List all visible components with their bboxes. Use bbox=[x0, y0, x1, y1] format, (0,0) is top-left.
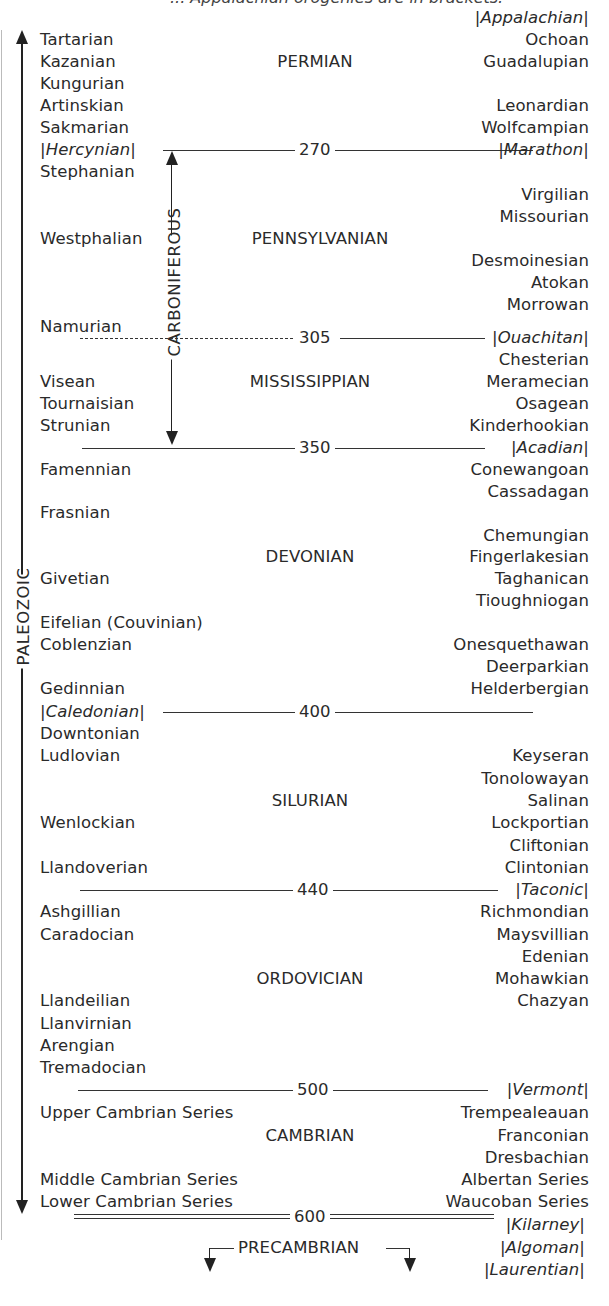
stage-wolfcampian: Wolfcampian bbox=[481, 118, 589, 138]
stage-frasnian: Frasnian bbox=[40, 503, 110, 523]
page-edge-line bbox=[1, 30, 2, 1240]
stage-taghanican: Taghanican bbox=[495, 569, 589, 589]
stage-virgilian: Virgilian bbox=[521, 185, 589, 205]
boundary-line-270 bbox=[163, 150, 533, 151]
stage-albertan: Albertan Series bbox=[461, 1170, 589, 1190]
stage-cassadagan: Cassadagan bbox=[487, 482, 589, 502]
stage-downtonian: Downtonian bbox=[40, 724, 140, 744]
stage-caradocian: Caradocian bbox=[40, 925, 134, 945]
stage-upper-cambrian: Upper Cambrian Series bbox=[40, 1103, 233, 1123]
period-devonian: DEVONIAN bbox=[235, 547, 385, 567]
stage-stephanian: Stephanian bbox=[40, 162, 135, 182]
stage-famennian: Famennian bbox=[40, 460, 131, 480]
boundary-line-440 bbox=[80, 890, 498, 891]
stage-conewangoan: Conewangoan bbox=[470, 460, 589, 480]
caption-fragment: ... Appalachian orogenies are in bracket… bbox=[170, 0, 503, 7]
stage-missourian: Missourian bbox=[499, 207, 589, 227]
orogeny-vermont: |Vermont| bbox=[507, 1080, 589, 1100]
stage-dresbachian: Dresbachian bbox=[485, 1148, 589, 1168]
stage-salinan: Salinan bbox=[528, 791, 589, 811]
paleozoic-label: PALEOZOIC bbox=[12, 575, 35, 669]
stage-llandeilian: Llandeilian bbox=[40, 991, 130, 1011]
precambrian-arrow-right-icon bbox=[404, 1258, 416, 1272]
period-pennsylvanian: PENNSYLVANIAN bbox=[220, 229, 420, 249]
stage-wenlockian: Wenlockian bbox=[40, 813, 135, 833]
stage-kungurian: Kungurian bbox=[40, 74, 125, 94]
period-mississippian: MISSISSIPPIAN bbox=[220, 372, 400, 392]
stage-leonardian: Leonardian bbox=[496, 96, 589, 116]
orogeny-appalachian: |Appalachian| bbox=[475, 8, 589, 28]
orogeny-taconic: |Taconic| bbox=[515, 880, 589, 900]
stage-namurian: Namurian bbox=[40, 317, 122, 337]
boundary-age-600: 600 bbox=[290, 1207, 330, 1227]
stage-gedinnian: Gedinnian bbox=[40, 679, 125, 699]
carboniferous-arrow-down-icon bbox=[166, 431, 178, 445]
carboniferous-label: CARBONIFEROUS bbox=[163, 236, 186, 360]
stage-deerparkian: Deerparkian bbox=[486, 657, 589, 677]
stage-desmoinesian: Desmoinesian bbox=[471, 251, 589, 271]
stage-cliftonian: Cliftonian bbox=[510, 836, 589, 856]
boundary-age-400: 400 bbox=[295, 702, 335, 722]
boundary-line-500 bbox=[78, 1090, 488, 1091]
orogeny-ouachitan: |Ouachitan| bbox=[492, 328, 589, 348]
precambrian-bracket-right bbox=[386, 1248, 410, 1249]
paleozoic-arrow-down-icon bbox=[16, 1200, 28, 1214]
period-silurian: SILURIAN bbox=[240, 791, 380, 811]
stage-trempealeauan: Trempealeauan bbox=[461, 1103, 589, 1123]
stage-arengian: Arengian bbox=[40, 1036, 115, 1056]
boundary-age-305: 305 bbox=[295, 328, 335, 348]
stage-clintonian: Clintonian bbox=[505, 858, 589, 878]
stage-mohawkian: Mohawkian bbox=[495, 969, 589, 989]
precambrian-arrow-left-icon bbox=[204, 1258, 216, 1272]
orogeny-acadian: |Acadian| bbox=[511, 438, 589, 458]
stage-middle-cambrian: Middle Cambrian Series bbox=[40, 1170, 238, 1190]
stage-lower-cambrian: Lower Cambrian Series bbox=[40, 1192, 233, 1212]
stage-kinderhookian: Kinderhookian bbox=[469, 416, 589, 436]
stage-chesterian: Chesterian bbox=[499, 350, 589, 370]
stage-eifelian: Eifelian (Couvinian) bbox=[40, 613, 203, 633]
stage-visean: Visean bbox=[40, 372, 95, 392]
stage-sakmarian: Sakmarian bbox=[40, 118, 129, 138]
stage-atokan: Atokan bbox=[531, 273, 589, 293]
boundary-age-500: 500 bbox=[293, 1080, 333, 1100]
stage-tremadocian: Tremadocian bbox=[40, 1058, 146, 1078]
stage-coblenzian: Coblenzian bbox=[40, 635, 132, 655]
carboniferous-arrow-up-icon bbox=[166, 151, 178, 165]
boundary-age-270: 270 bbox=[295, 140, 335, 160]
precambrian-bracket-left bbox=[210, 1248, 234, 1249]
boundary-line-305 bbox=[340, 338, 485, 339]
stage-meramecian: Meramecian bbox=[486, 372, 589, 392]
stage-edenian: Edenian bbox=[522, 947, 589, 967]
precambrian-label: PRECAMBRIAN bbox=[238, 1238, 359, 1258]
boundary-age-350: 350 bbox=[295, 438, 335, 458]
stage-strunian: Strunian bbox=[40, 416, 111, 436]
stage-llandoverian: Llandoverian bbox=[40, 858, 148, 878]
stage-franconian: Franconian bbox=[498, 1126, 589, 1146]
stage-artinskian: Artinskian bbox=[40, 96, 124, 116]
stage-morrowan: Morrowan bbox=[507, 295, 589, 315]
stage-tonolowayan: Tonolowayan bbox=[481, 769, 589, 789]
stage-chazyan: Chazyan bbox=[517, 991, 589, 1011]
stage-westphalian: Westphalian bbox=[40, 229, 142, 249]
stage-helderbergian: Helderbergian bbox=[470, 679, 589, 699]
period-permian: PERMIAN bbox=[240, 52, 390, 72]
boundary-age-440: 440 bbox=[293, 880, 333, 900]
stage-keyseran: Keyseran bbox=[512, 746, 589, 766]
stage-chemungian: Chemungian bbox=[483, 526, 589, 546]
period-ordovician: ORDOVICIAN bbox=[225, 969, 395, 989]
stage-tartarian: Tartarian bbox=[40, 30, 114, 50]
stage-givetian: Givetian bbox=[40, 569, 110, 589]
orogeny-algoman: |Algoman| bbox=[500, 1238, 585, 1258]
orogeny-hercynian: |Hercynian| bbox=[40, 140, 136, 160]
stage-llanvirnian: Llanvirnian bbox=[40, 1014, 132, 1034]
boundary-line-600-double bbox=[74, 1214, 494, 1219]
stage-kazanian: Kazanian bbox=[40, 52, 116, 72]
orogeny-caledonian: |Caledonian| bbox=[40, 702, 145, 722]
orogeny-marathon: |Marathon| bbox=[498, 140, 589, 160]
period-cambrian: CAMBRIAN bbox=[235, 1126, 385, 1146]
orogeny-laurentian: |Laurentian| bbox=[484, 1260, 585, 1280]
orogeny-kilarney: |Kilarney| bbox=[506, 1215, 585, 1235]
stage-guadalupian: Guadalupian bbox=[483, 52, 589, 72]
stage-tioughniogan: Tioughniogan bbox=[476, 591, 589, 611]
stage-waucoban: Waucoban Series bbox=[445, 1192, 589, 1212]
